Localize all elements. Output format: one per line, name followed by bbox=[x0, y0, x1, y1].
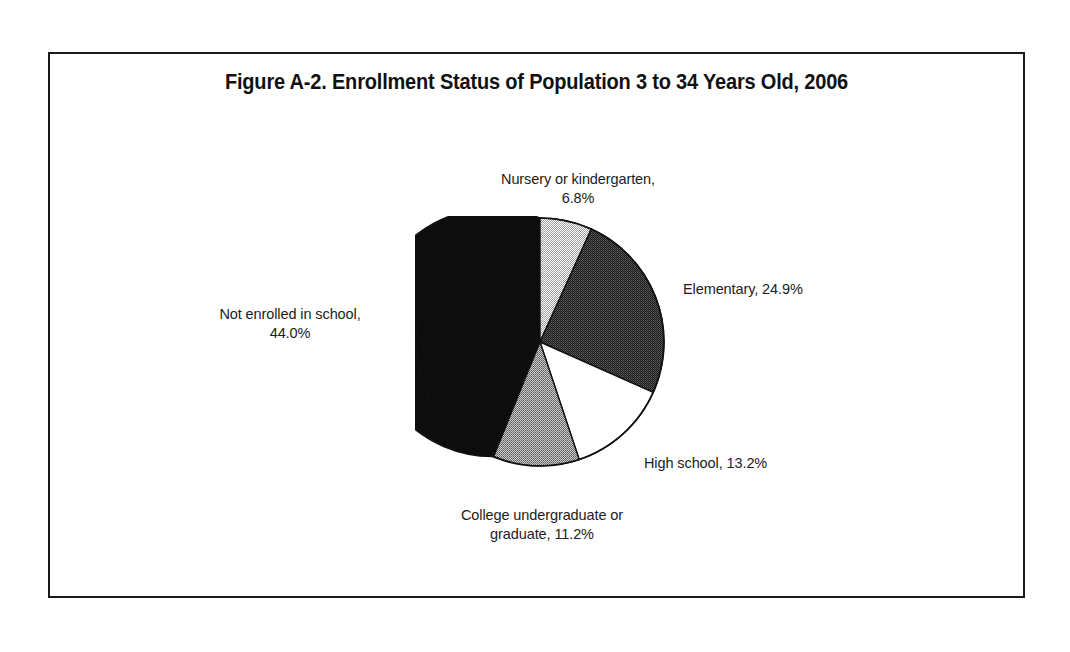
pie-svg bbox=[415, 216, 665, 468]
pie-label-college: College undergraduate or graduate, 11.2% bbox=[427, 506, 657, 543]
pie-label-high-school: High school, 13.2% bbox=[644, 454, 844, 473]
pie-chart: Nursery or kindergarten, 6.8% Elementary… bbox=[50, 54, 1027, 600]
pie-graphic bbox=[415, 216, 665, 468]
figure-frame: Figure A-2. Enrollment Status of Populat… bbox=[48, 52, 1025, 598]
pie-label-elementary: Elementary, 24.9% bbox=[683, 280, 883, 299]
pie-label-nursery: Nursery or kindergarten, 6.8% bbox=[463, 170, 693, 207]
pie-label-not-enrolled: Not enrolled in school, 44.0% bbox=[185, 305, 395, 342]
